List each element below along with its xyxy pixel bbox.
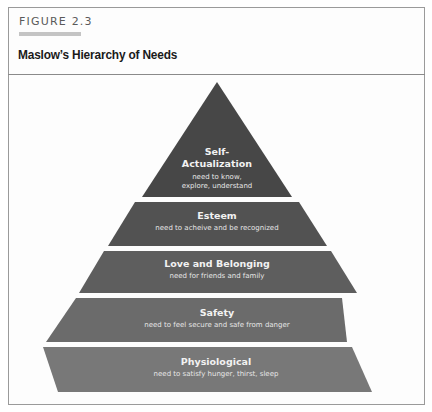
tier-esteem: Esteem need to acheive and be recognized	[155, 210, 278, 233]
tier-description: explore, understand	[182, 182, 253, 191]
tier-title: Physiological	[154, 356, 279, 368]
tier-description: need to know,	[182, 173, 253, 182]
tier-title: Actualization	[182, 158, 253, 170]
tier-description: need to acheive and be recognized	[155, 224, 278, 233]
tier-self-actualization: Self- Actualization need to know, explor…	[182, 146, 253, 191]
tier-safety: Safety need to feel secure and safe from…	[144, 307, 289, 330]
tier-love-belonging: Love and Belonging need for friends and …	[164, 258, 270, 281]
tier-title: Self-	[182, 146, 253, 158]
tier-description: need to satisfy hunger, thirst, sleep	[154, 370, 279, 379]
tier-title: Esteem	[155, 210, 278, 222]
tier-description: need to feel secure and safe from danger	[144, 321, 289, 330]
tier-title: Safety	[144, 307, 289, 319]
tier-physiological: Physiological need to satisfy hunger, th…	[154, 356, 279, 379]
pyramid-diagram	[0, 0, 432, 412]
tier-title: Love and Belonging	[164, 258, 270, 270]
tier-description: need for friends and family	[164, 272, 270, 281]
